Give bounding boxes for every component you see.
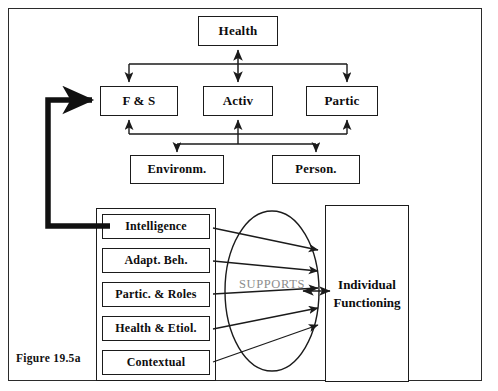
node-activ-label: Activ [223, 93, 254, 109]
figure-caption: Figure 19.5a [16, 352, 81, 364]
dimension-health-etiol-label: Health & Etiol. [115, 321, 196, 336]
node-fs-label: F & S [122, 93, 155, 109]
outcome-individual-functioning: Individual Functioning [325, 205, 409, 382]
dimension-partic-roles: Partic. & Roles [102, 282, 210, 307]
figure-canvas: Health F & S Activ Partic Environm. Pers… [0, 0, 498, 391]
node-health-label: Health [219, 23, 258, 39]
node-health: Health [198, 16, 278, 46]
supports-label: SUPPORTS [232, 277, 312, 292]
dimension-intelligence: Intelligence [102, 214, 210, 239]
node-environm-label: Environm. [148, 162, 207, 177]
outcome-line-1: Individual [333, 276, 400, 294]
figure-frame [8, 8, 482, 381]
node-activ: Activ [203, 86, 273, 116]
dimension-contextual: Contextual [102, 350, 210, 375]
dimension-adapt-beh: Adapt. Beh. [102, 248, 210, 273]
outcome-line-2: Functioning [333, 294, 400, 312]
dimension-adapt-beh-label: Adapt. Beh. [124, 253, 187, 268]
node-partic: Partic [306, 86, 378, 116]
dimension-contextual-label: Contextual [127, 355, 186, 370]
dimension-health-etiol: Health & Etiol. [102, 316, 210, 341]
node-person-label: Person. [295, 162, 336, 177]
node-person: Person. [272, 155, 360, 184]
dimension-intelligence-label: Intelligence [125, 219, 187, 234]
dimension-partic-roles-label: Partic. & Roles [115, 287, 196, 302]
node-fs: F & S [100, 86, 178, 116]
node-environm: Environm. [130, 155, 224, 184]
node-partic-label: Partic [324, 93, 359, 109]
